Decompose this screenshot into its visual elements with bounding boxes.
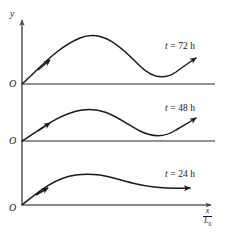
series-label-t-48h: t = 48 h (165, 104, 195, 114)
x-axis-label-denominator-sub: 0 (208, 221, 211, 227)
series-label-t-72h: t = 72 h (165, 42, 195, 52)
series-label-value-2: 48 h (178, 103, 195, 113)
origin-label-panel-2: O (9, 136, 16, 146)
figure-container: y O O O t = 72 h t = 48 h t = 24 h x L0 (0, 0, 227, 233)
x-axis-label-numerator: x (203, 207, 212, 215)
series-label-t-24h: t = 24 h (165, 170, 195, 180)
plot-canvas (0, 0, 227, 233)
x-axis-label-denominator: L0 (203, 217, 212, 227)
y-axis-label: y (10, 10, 14, 20)
curve-t-48h (22, 109, 196, 141)
flow-arrow-panel-2 (38, 123, 50, 131)
series-label-eq-1: = (168, 41, 178, 51)
series-label-value-1: 72 h (178, 41, 195, 51)
series-label-eq-2: = (168, 103, 178, 113)
origin-label-panel-1: O (9, 79, 16, 89)
series-label-eq-3: = (168, 169, 178, 179)
x-axis-label: x L0 (203, 207, 212, 228)
flow-arrow-panel-1 (38, 60, 50, 70)
origin-label-panel-3: O (9, 203, 16, 213)
series-label-value-3: 24 h (178, 169, 195, 179)
